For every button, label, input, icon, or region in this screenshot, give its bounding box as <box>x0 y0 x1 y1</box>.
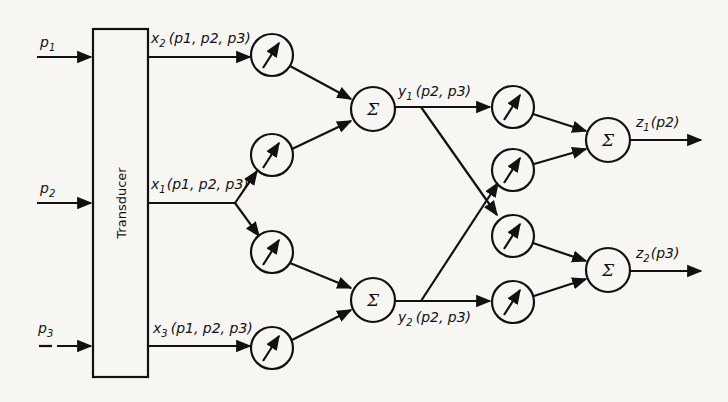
input-label-p3: p3 <box>37 320 53 339</box>
input-label-p2: p2 <box>39 180 55 199</box>
output-label-x1: x1(p1, p2, p3) <box>150 176 249 195</box>
transducer-label: Transducer <box>114 167 129 240</box>
sigma-icon: Σ <box>366 99 380 119</box>
output-label-x3: x3(p1, p2, p3) <box>152 320 253 339</box>
meter-4 <box>251 327 293 369</box>
meter-1 <box>251 34 293 76</box>
meter-8 <box>492 281 534 323</box>
signal-network-diagram: p1 p2 p3 Transducer x2(p1, p2, p3) x1(p1… <box>0 0 728 402</box>
output-label-x2: x2(p1, p2, p3) <box>150 30 251 49</box>
meter-6 <box>492 149 534 191</box>
output-label-z1: z1(p2) <box>635 114 679 133</box>
sum-node-z2: Σ <box>586 248 630 292</box>
meter-7 <box>492 215 534 257</box>
sigma-icon: Σ <box>366 290 380 310</box>
output-label-y2: y2(p2, p3) <box>397 309 471 328</box>
sigma-icon: Σ <box>601 260 615 280</box>
sum-node-y2: Σ <box>351 278 395 322</box>
output-label-z2: z2(p3) <box>635 245 679 264</box>
sigma-icon: Σ <box>601 130 615 150</box>
meter-2 <box>251 134 293 176</box>
sum-node-z1: Σ <box>586 118 630 162</box>
meter-5 <box>492 86 534 128</box>
output-label-y1: y1(p2, p3) <box>397 83 471 102</box>
meter-3 <box>251 231 293 273</box>
input-label-p1: p1 <box>39 34 55 53</box>
sum-node-y1: Σ <box>351 87 395 131</box>
